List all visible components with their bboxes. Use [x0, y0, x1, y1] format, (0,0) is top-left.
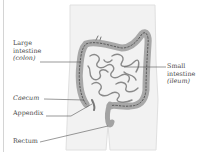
label-large-intestine-line3: (colon): [13, 55, 41, 63]
label-caecum-text: Caecum: [13, 94, 39, 102]
label-colon-italic: (colon): [13, 54, 35, 62]
label-ileum-italic: (ileum): [167, 77, 190, 85]
label-small-intestine: Small intestine (ileum): [167, 63, 195, 86]
label-large-intestine: Large intestine (colon): [13, 40, 41, 63]
label-caecum: Caecum: [13, 95, 39, 103]
label-small-intestine-line3: (ileum): [167, 78, 195, 86]
label-appendix: Appendix: [13, 110, 43, 118]
label-rectum: Rectum: [13, 138, 38, 146]
